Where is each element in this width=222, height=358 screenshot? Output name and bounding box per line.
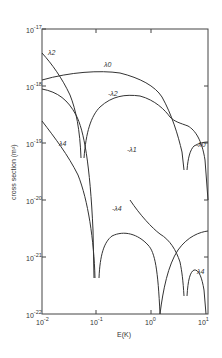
x-axis-title: E(K) bbox=[117, 331, 131, 339]
curve-minus-lambda2 bbox=[84, 95, 208, 200]
label-minus-lambda2: -λ2 bbox=[108, 90, 118, 97]
y-axis bbox=[42, 29, 208, 257]
y-tick-label: 10-22 bbox=[26, 309, 42, 319]
x-tick-label: 10-2 bbox=[36, 316, 49, 326]
label-minus-lambda0: -λ0 bbox=[196, 141, 206, 148]
curve-lambda4-lobe bbox=[187, 270, 206, 314]
curve-lambda1 bbox=[42, 89, 94, 278]
curve-lambda1-upper bbox=[130, 200, 184, 296]
x-tick-label: 100 bbox=[145, 316, 156, 326]
y-tick-label: 10-20 bbox=[26, 195, 42, 205]
curve-minus-lambda4 bbox=[99, 233, 160, 314]
cross-section-chart: 10-17 10-18 10-19 10-20 10-21 10-22 10-2… bbox=[0, 0, 222, 358]
y-tick-label: 10-18 bbox=[26, 81, 42, 91]
plot-frame bbox=[42, 29, 208, 314]
label-minus-lambda1: -λ1 bbox=[127, 146, 137, 153]
x-tick-label: 10-1 bbox=[90, 316, 103, 326]
x-tick-label: 101 bbox=[198, 316, 209, 326]
y-tick-label: 10-17 bbox=[26, 24, 42, 34]
label-lambda4: λ4 bbox=[58, 140, 66, 147]
label-minus-lambda4: -λ4 bbox=[112, 205, 122, 212]
curve-lambda4 bbox=[42, 121, 95, 278]
label-lambda2: λ2 bbox=[47, 49, 55, 56]
label-lambda0: λ0 bbox=[103, 61, 111, 68]
y-axis-title: cross section (m²) bbox=[10, 144, 18, 200]
label-lambda4-right: λ4 bbox=[196, 268, 204, 275]
curve-lambda0 bbox=[42, 72, 184, 170]
y-tick-label: 10-21 bbox=[26, 252, 42, 262]
y-tick-label: 10-19 bbox=[26, 138, 42, 148]
